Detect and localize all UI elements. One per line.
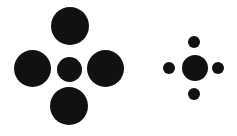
left-center-circle — [57, 57, 82, 82]
left-top-large-circle — [51, 7, 89, 45]
left-bottom-large-circle — [50, 87, 88, 125]
right-top-small-circle — [188, 36, 200, 48]
left-left-large-circle — [14, 50, 51, 87]
right-left-small-circle — [163, 62, 175, 74]
illusion-figure — [0, 0, 237, 136]
left-right-large-circle — [87, 50, 124, 87]
right-center-circle — [182, 55, 208, 81]
right-right-small-circle — [212, 62, 224, 74]
right-bottom-small-circle — [188, 88, 200, 100]
